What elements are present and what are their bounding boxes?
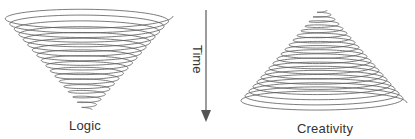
creativity-label: Creativity [285, 121, 365, 136]
logic-label: Logic [50, 118, 120, 133]
time-label: Time [190, 45, 205, 73]
logic-spiral [0, 0, 180, 120]
creativity-spiral [240, 0, 415, 120]
